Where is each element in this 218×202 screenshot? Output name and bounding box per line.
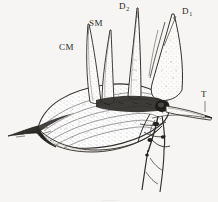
label-d2-text: D [119, 1, 126, 11]
botanical-figure: CM SM D2 D1 T ......... [0, 0, 218, 202]
label-d2-subscript: 2 [126, 6, 129, 12]
figure-caption-partial: ......... [0, 195, 218, 202]
awn-sm [102, 30, 114, 104]
label-d1: D1 [182, 7, 192, 16]
label-d2: D2 [119, 2, 129, 11]
awn-d2 [128, 8, 141, 99]
label-d1-text: D [182, 6, 189, 16]
label-d1-subscript: 1 [189, 11, 192, 17]
label-cm: CM [59, 43, 74, 52]
awn-cm [87, 24, 101, 104]
awn-d1 [149, 14, 183, 101]
floret-illustration [0, 0, 218, 202]
label-sm: SM [89, 19, 103, 28]
label-t: T [201, 90, 207, 99]
